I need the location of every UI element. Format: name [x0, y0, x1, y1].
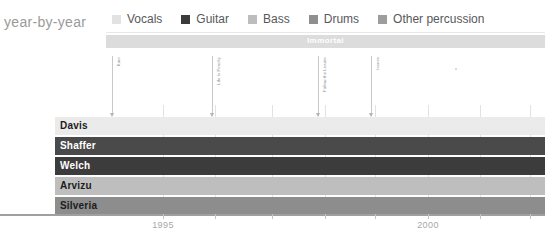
axis-major-tick [163, 214, 164, 219]
axis-minor-tick [375, 214, 376, 219]
legend-item[interactable]: Vocals [112, 13, 162, 25]
axis-minor-tick [272, 214, 273, 219]
axis-minor-tick [530, 214, 531, 219]
release-marker-line [318, 56, 319, 116]
legend-item[interactable]: Other percussion [378, 13, 484, 25]
table-row[interactable]: Welch [0, 157, 545, 175]
release-marker-line [371, 56, 372, 116]
member-name-label: Shaffer [60, 140, 96, 151]
table-row[interactable]: Davis [0, 117, 545, 135]
table-row[interactable]: Silveria [0, 197, 545, 215]
release-marker-label: Korn [116, 57, 121, 66]
year-by-year-chart: year-by-year VocalsGuitarBassDrumsOther … [0, 0, 545, 235]
stray-dot [455, 68, 457, 70]
legend-item-label: Bass [263, 13, 290, 25]
axis-minor-tick [480, 214, 481, 219]
member-name-label: Davis [60, 120, 88, 131]
release-marker-label: Follow the Leader [322, 57, 327, 92]
member-timeline-bar[interactable] [55, 137, 545, 155]
member-timeline-bar[interactable] [55, 157, 545, 175]
legend-item-label: Guitar [196, 13, 229, 25]
legend-swatch-icon [248, 15, 257, 24]
release-marker-line [212, 56, 213, 116]
axis-major-tick [428, 214, 429, 219]
album-span-label: Immortal [106, 36, 545, 45]
axis-tick-label: 1995 [152, 220, 174, 230]
legend-item[interactable]: Drums [309, 13, 359, 25]
release-marker-label: Issues [375, 57, 380, 70]
member-name-label: Arvizu [60, 180, 92, 191]
axis-minor-tick [215, 214, 216, 219]
member-timeline-bar[interactable] [55, 197, 545, 215]
legend-item-label: Vocals [127, 13, 162, 25]
release-marker-label: Life Is Peachy [216, 57, 221, 85]
member-rows: DavisShafferWelchArvizuSilveria [0, 117, 545, 217]
legend-swatch-icon [112, 15, 121, 24]
table-row[interactable]: Arvizu [0, 177, 545, 195]
legend-item[interactable]: Bass [248, 13, 290, 25]
legend-swatch-icon [378, 15, 387, 24]
header-divider [106, 32, 545, 33]
legend-swatch-icon [309, 15, 318, 24]
legend-item[interactable]: Guitar [181, 13, 229, 25]
axis-tick-label: 2000 [417, 220, 439, 230]
legend-swatch-icon [181, 15, 190, 24]
legend: VocalsGuitarBassDrumsOther percussion [112, 13, 484, 25]
release-marker-line [112, 56, 113, 116]
member-timeline-bar[interactable] [55, 117, 545, 135]
member-name-label: Welch [60, 160, 90, 171]
member-name-label: Silveria [60, 200, 97, 211]
table-row[interactable]: Shaffer [0, 137, 545, 155]
legend-item-label: Other percussion [393, 13, 484, 25]
axis-minor-tick [325, 214, 326, 219]
page-title: year-by-year [4, 14, 86, 30]
legend-item-label: Drums [324, 13, 359, 25]
member-timeline-bar[interactable] [55, 177, 545, 195]
